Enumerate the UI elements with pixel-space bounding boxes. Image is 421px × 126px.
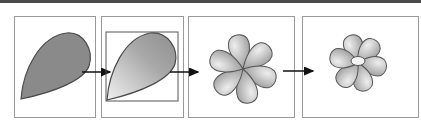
- solid-petal-shape: [21, 33, 90, 99]
- diagram-canvas: [0, 0, 421, 126]
- flower-center: [351, 57, 365, 66]
- flower-with-center: [328, 33, 388, 93]
- gradient-petal-shape: [107, 33, 176, 100]
- six-petal-flower: [207, 33, 279, 105]
